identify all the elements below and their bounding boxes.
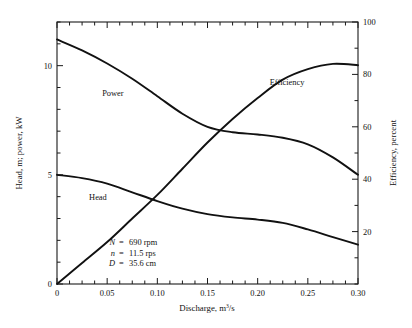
right-tick-label: 60 [363, 123, 371, 132]
annotation-value: 11.5 rps [129, 249, 156, 258]
right-axis-tick-labels: 20406080100 [363, 18, 376, 237]
chart-svg: 00.050.100.150.200.250.30 0510 204060801… [0, 0, 412, 328]
data-curves [57, 39, 358, 284]
annotation-symbol: N [108, 238, 115, 247]
curve-head [57, 175, 358, 245]
annotation-value: 35.6 cm [129, 259, 156, 268]
left-tick-label: 5 [48, 171, 52, 180]
parameter-annotations: N=690 rpmn=11.5 rpsD=35.6 cm [108, 238, 158, 268]
pump-performance-chart: 00.050.100.150.200.250.30 0510 204060801… [0, 0, 412, 328]
annotation-symbol: D [108, 259, 115, 268]
curve-label-power: Power [102, 89, 124, 98]
annotation-equals: = [119, 249, 124, 258]
curve-power [57, 39, 358, 174]
annotation-equals: = [119, 238, 124, 247]
right-tick-label: 80 [363, 70, 371, 79]
left-tick-label: 10 [44, 62, 52, 71]
top-axis-ticks [57, 22, 358, 28]
x-axis-ticks [57, 278, 358, 284]
x-tick-label: 0.20 [250, 289, 265, 298]
curve-labels: PowerHeadEfficiency [89, 78, 305, 202]
curve-label-efficiency: Efficiency [270, 78, 306, 87]
x-tick-label: 0.25 [301, 289, 316, 298]
x-tick-label: 0.10 [150, 289, 165, 298]
left-axis-title: Head, m; power, kW [14, 116, 24, 190]
annotation-value: 690 rpm [129, 238, 158, 247]
x-tick-label: 0.15 [200, 289, 215, 298]
x-tick-label: 0.05 [100, 289, 115, 298]
left-axis-ticks [57, 22, 63, 284]
annotation-equals: = [119, 259, 124, 268]
left-tick-label: 0 [48, 280, 52, 289]
annotation-symbol: n [111, 249, 115, 258]
right-tick-label: 100 [363, 18, 376, 27]
x-tick-label: 0 [55, 289, 59, 298]
right-tick-label: 20 [363, 228, 371, 237]
right-tick-label: 40 [363, 175, 371, 184]
x-axis-title: Discharge, m3/s [179, 303, 235, 313]
left-axis-tick-labels: 0510 [44, 62, 52, 289]
curve-label-head: Head [89, 193, 107, 202]
right-axis-title: Efficiency, percent [388, 119, 398, 186]
x-tick-label: 0.30 [351, 289, 366, 298]
x-axis-tick-labels: 00.050.100.150.200.250.30 [55, 289, 365, 298]
